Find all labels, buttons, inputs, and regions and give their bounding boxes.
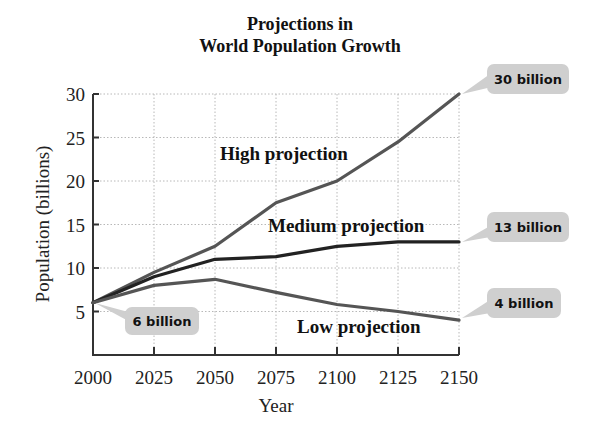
high-projection-line — [93, 94, 459, 303]
high-projection-label: High projection — [220, 143, 348, 164]
y-tick-label: 20 — [66, 171, 85, 192]
x-tick-label: 2025 — [135, 367, 173, 388]
chart-title-line-2: World Population Growth — [199, 36, 401, 56]
y-tick-label: 25 — [66, 128, 85, 149]
annotation-30-billion: 30 billion — [462, 64, 569, 94]
y-tick-label: 5 — [76, 302, 86, 323]
y-tick-label: 30 — [66, 84, 85, 105]
y-tick-label: 15 — [66, 215, 85, 236]
x-tick-label: 2150 — [440, 367, 478, 388]
x-tick-label: 2100 — [318, 367, 356, 388]
population-chart: Projections in World Population Growth 5… — [0, 0, 601, 440]
svg-text:4 billion: 4 billion — [495, 296, 554, 311]
chart-title-line-1: Projections in — [247, 14, 353, 34]
x-tick-label: 2050 — [196, 367, 234, 388]
medium-projection-label: Medium projection — [268, 215, 425, 236]
y-tick-label: 10 — [66, 258, 85, 279]
svg-text:30 billion: 30 billion — [494, 72, 562, 87]
x-tick-label: 2075 — [257, 367, 295, 388]
x-tick-label: 2125 — [379, 367, 417, 388]
annotation-13-billion: 13 billion — [462, 212, 569, 242]
low-projection-label: Low projection — [297, 316, 421, 337]
svg-text:6 billion: 6 billion — [133, 314, 192, 329]
annotation-6-billion: 6 billion — [95, 303, 199, 335]
x-tick-label: 2000 — [74, 367, 112, 388]
x-axis-label: Year — [258, 395, 294, 416]
y-axis-label: Population (billions) — [32, 146, 54, 303]
annotation-4-billion: 4 billion — [462, 288, 561, 318]
svg-text:13 billion: 13 billion — [494, 220, 562, 235]
